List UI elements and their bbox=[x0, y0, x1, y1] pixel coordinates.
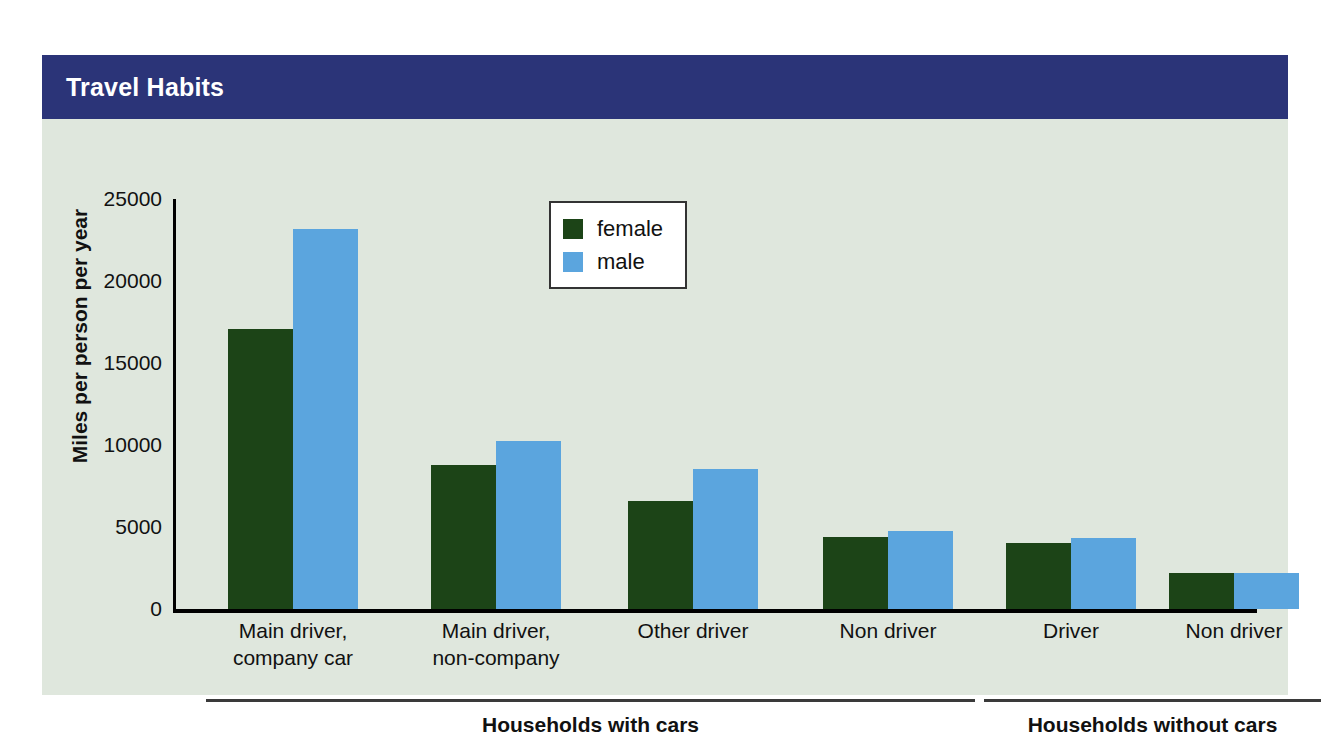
x-axis-label-5: Non driver bbox=[1124, 617, 1331, 644]
bar-female-1 bbox=[431, 465, 496, 609]
y-tick-25000: 25000 bbox=[72, 187, 162, 211]
y-tick-15000: 15000 bbox=[72, 351, 162, 375]
y-tick-0: 0 bbox=[72, 597, 162, 621]
x-axis-label-line: Main driver, bbox=[386, 617, 606, 644]
chart-title-bar: Travel Habits bbox=[42, 55, 1288, 119]
legend-label-female: female bbox=[597, 216, 663, 242]
x-axis-label-1: Main driver,non-company bbox=[386, 617, 606, 671]
bar-male-4 bbox=[1071, 538, 1136, 609]
x-axis-category-labels: Main driver,company carMain driver,non-c… bbox=[176, 617, 1257, 681]
x-axis-label-0: Main driver,company car bbox=[183, 617, 403, 671]
supergroup-label-0: Households with cars bbox=[206, 713, 975, 737]
x-axis-label-line: Main driver, bbox=[183, 617, 403, 644]
supergroup-label-1: Households without cars bbox=[984, 713, 1321, 737]
bar-female-5 bbox=[1169, 573, 1234, 609]
y-tick-10000: 10000 bbox=[72, 433, 162, 457]
bar-male-1 bbox=[496, 441, 561, 609]
legend-item-female: female bbox=[563, 212, 663, 245]
bar-female-0 bbox=[228, 329, 293, 609]
bar-male-0 bbox=[293, 229, 358, 609]
x-axis-label-2: Other driver bbox=[583, 617, 803, 644]
x-axis-label-line: company car bbox=[183, 644, 403, 671]
bar-male-3 bbox=[888, 531, 953, 609]
supergroup-rule-0 bbox=[206, 699, 975, 702]
chart-figure: Travel Habits Miles per person per year … bbox=[42, 55, 1288, 695]
legend-label-male: male bbox=[597, 249, 645, 275]
y-tick-20000: 20000 bbox=[72, 269, 162, 293]
chart-legend: female male bbox=[549, 201, 687, 289]
x-axis-line bbox=[173, 609, 1257, 613]
page-title: Travel Habits bbox=[66, 73, 224, 102]
bars-container bbox=[176, 199, 1257, 609]
plot-area: Miles per person per year 25000 20000 15… bbox=[42, 119, 1288, 695]
y-tick-5000: 5000 bbox=[72, 515, 162, 539]
bar-female-2 bbox=[628, 501, 693, 609]
bar-male-2 bbox=[693, 469, 758, 609]
legend-item-male: male bbox=[563, 245, 663, 278]
legend-swatch-female-icon bbox=[563, 219, 583, 239]
legend-swatch-male-icon bbox=[563, 252, 583, 272]
x-axis-label-line: Non driver bbox=[1124, 617, 1331, 644]
x-axis-label-line: Other driver bbox=[583, 617, 803, 644]
supergroup-rule-1 bbox=[984, 699, 1321, 702]
supergroup-rules: Households with carsHouseholds without c… bbox=[176, 699, 1257, 738]
bar-female-3 bbox=[823, 537, 888, 609]
y-axis-tick-labels: 25000 20000 15000 10000 5000 0 bbox=[62, 119, 162, 695]
x-axis-label-line: non-company bbox=[386, 644, 606, 671]
bar-male-5 bbox=[1234, 573, 1299, 609]
bar-female-4 bbox=[1006, 543, 1071, 609]
